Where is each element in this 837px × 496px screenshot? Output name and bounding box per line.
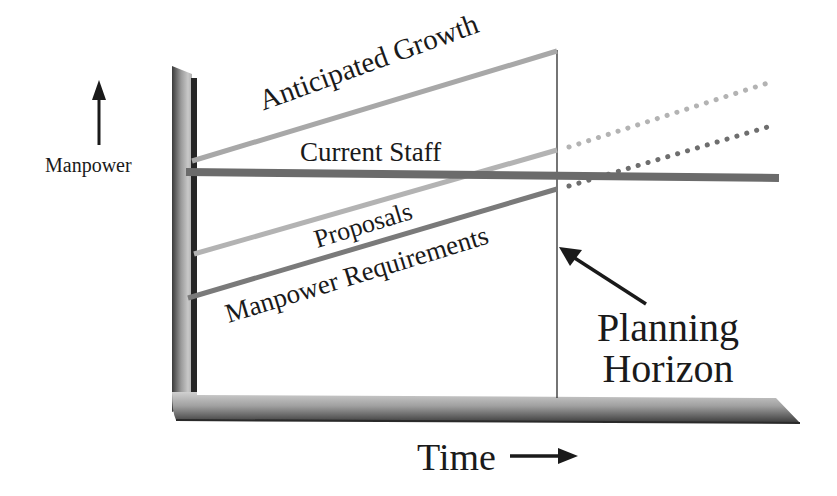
planning-horizon-arrow-icon xyxy=(559,247,646,304)
label-current-staff: Current Staff xyxy=(300,139,441,166)
planning-horizon-label-line1: Planning xyxy=(588,308,748,349)
time-right-arrow-icon xyxy=(510,448,578,464)
x-axis xyxy=(172,392,800,423)
line-proposals-projection xyxy=(569,82,771,147)
x-axis-label: Time xyxy=(417,438,496,476)
y-axis xyxy=(172,66,197,412)
line-current-staff xyxy=(186,172,779,178)
y-axis-label: Manpower xyxy=(45,155,132,175)
planning-horizon-label-line2: Horizon xyxy=(588,349,748,390)
manpower-up-arrow-icon xyxy=(92,80,106,145)
planning-horizon-label: Planning Horizon xyxy=(588,308,748,390)
